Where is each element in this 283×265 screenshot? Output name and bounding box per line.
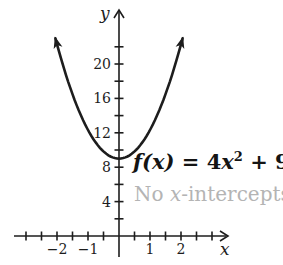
x-tick-label: 1: [146, 241, 155, 257]
y-axis-label: y: [100, 5, 110, 22]
x-tick-label: 2: [177, 241, 186, 257]
equation-exponent: 2: [234, 149, 243, 164]
x-tick-label: −2: [47, 241, 68, 257]
equation-equals-coeff: = 4: [174, 149, 221, 174]
function-equation: f(x) = 4x2 + 9: [133, 149, 283, 174]
equation-fx: f(x): [133, 149, 174, 174]
y-tick-label: 16: [93, 90, 111, 106]
y-tick-label: 8: [102, 159, 111, 175]
x-tick-label: −1: [78, 241, 99, 257]
no-x-intercepts-note: No x-intercepts: [134, 183, 283, 205]
x-axis-label: x: [220, 241, 230, 258]
equation-constant: + 9: [243, 149, 283, 174]
note-post: -intercepts: [181, 182, 283, 206]
plot-canvas: −2−11248121620: [0, 0, 283, 265]
y-tick-label: 12: [93, 125, 111, 141]
note-x-italic: x: [170, 182, 181, 206]
y-tick-label: 20: [93, 56, 111, 72]
equation-variable: x: [221, 149, 234, 174]
parabola-figure: −2−11248121620 y x f(x) = 4x2 + 9 No x-i…: [0, 0, 283, 265]
note-pre: No: [134, 182, 170, 206]
y-tick-label: 4: [102, 194, 111, 210]
